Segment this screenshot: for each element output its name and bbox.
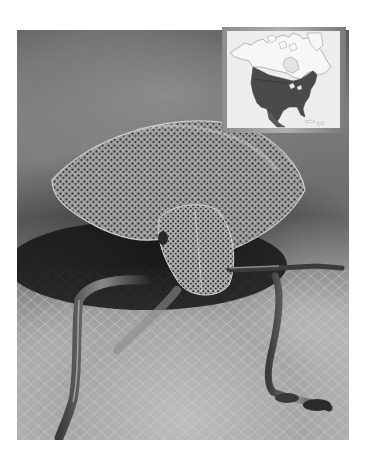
caribbean-islands (305, 120, 324, 125)
bug-eye-left (158, 231, 168, 245)
leg-right-tarsus (303, 399, 331, 411)
range-map-inset (222, 27, 346, 133)
range-map (227, 31, 340, 128)
leg-right-tarsus-segment (275, 393, 299, 403)
page (0, 0, 366, 460)
species-range (251, 67, 317, 123)
north-america-map (227, 31, 340, 128)
